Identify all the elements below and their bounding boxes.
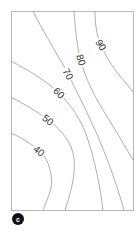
contour-label-70: 70 <box>61 67 76 82</box>
contour-labels: 405060708090 <box>30 36 109 159</box>
contour-label-90: 90 <box>93 37 108 53</box>
panel-badge: c <box>12 213 24 225</box>
contour-label-50: 50 <box>40 112 56 128</box>
contour-plot: 405060708090 c <box>0 0 140 237</box>
panel-badge-label: c <box>16 216 20 223</box>
contour-line-70 <box>33 11 124 210</box>
contour-lines <box>11 11 133 210</box>
contour-line-40 <box>11 133 52 210</box>
contour-line-80 <box>74 11 133 160</box>
